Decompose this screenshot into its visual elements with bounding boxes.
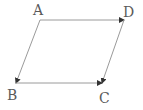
vector-a-b — [16, 20, 40, 83]
label-d: D — [123, 5, 134, 19]
parallelogram-diagram — [0, 0, 143, 110]
label-a: A — [33, 3, 43, 17]
label-c: C — [99, 91, 110, 105]
vector-d-c — [102, 20, 124, 83]
label-b: B — [7, 88, 17, 102]
